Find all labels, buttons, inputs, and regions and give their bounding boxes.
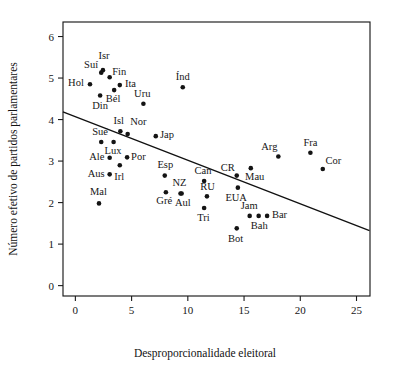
data-point-ita (117, 83, 122, 88)
data-point-sué (99, 140, 104, 145)
point-label-gré: Gré (156, 195, 172, 206)
y-tick-label: 0 (49, 280, 55, 292)
point-label-bar: Bar (272, 209, 288, 220)
point-label-sué: Sué (92, 126, 108, 137)
point-label-arg: Arg (261, 141, 278, 152)
y-axis-title: Número efetivo de partidos parlamentares (7, 62, 20, 256)
point-label-mau: Mau (245, 171, 265, 182)
y-tick-label: 2 (49, 197, 55, 209)
point-label-esp: Esp (157, 159, 173, 170)
point-label-lux: Lux (105, 145, 123, 156)
regression-line (64, 112, 369, 230)
point-label-jam: Jam (241, 200, 258, 211)
point-label-jap: Jap (160, 129, 174, 140)
point-label-tri: Tri (197, 212, 210, 223)
point-label-mal: Mal (90, 186, 107, 197)
data-point-mal (97, 201, 102, 206)
point-label-bot: Bot (228, 233, 243, 244)
point-label-isl: Isl (113, 115, 124, 126)
data-point-din (98, 93, 103, 98)
point-label-índ: Índ (176, 71, 191, 82)
data-points (88, 68, 325, 231)
point-label-nor: Nor (130, 116, 147, 127)
point-label-cor: Cor (326, 155, 342, 166)
data-point-tri (202, 206, 207, 211)
data-point-nor (125, 132, 130, 137)
point-label-ale: Ale (89, 151, 105, 162)
x-tick-label: 5 (129, 304, 135, 316)
data-point-ale (107, 155, 112, 160)
data-point-irl (117, 163, 122, 168)
point-label-cr: CR (221, 162, 235, 173)
point-label-fin: Fin (112, 66, 127, 77)
y-tick-label: 3 (49, 155, 55, 167)
data-point-jap (153, 134, 158, 139)
chart-canvas: 05101520250123456 IsrSuíFinHolItaBélDinU… (0, 0, 393, 371)
data-point-cor (320, 167, 325, 172)
data-point-hol (88, 82, 93, 87)
point-label-irl: Irl (114, 171, 124, 182)
point-label-fra: Fra (303, 137, 317, 148)
trend-line (64, 112, 369, 230)
point-label-suí: Suí (84, 59, 98, 70)
point-label-ru: RU (200, 181, 215, 192)
data-point-jam (247, 214, 252, 219)
y-tick-label: 6 (49, 31, 55, 43)
data-point-suí (99, 70, 104, 75)
point-label-din: Din (92, 100, 109, 111)
data-point-esp (162, 173, 167, 178)
data-point-eua (236, 185, 241, 190)
data-point-uru (141, 101, 146, 106)
point-label-nz: NZ (172, 177, 186, 188)
x-axis-title: Desproporcionalidade eleitoral (134, 347, 276, 360)
data-point-fra (308, 150, 313, 155)
x-tick-label: 15 (239, 304, 251, 316)
data-point-bél (112, 88, 117, 93)
x-tick-label: 20 (295, 304, 307, 316)
data-point-ru (205, 194, 210, 199)
data-point-cr (234, 173, 239, 178)
data-point-aus (107, 172, 112, 177)
point-label-aul: Aul (175, 197, 191, 208)
data-point-bot (234, 226, 239, 231)
data-point-aul (179, 191, 184, 196)
point-label-bah: Bah (251, 220, 269, 231)
point-label-por: Por (131, 151, 146, 162)
data-point-por (125, 155, 130, 160)
data-point-bah (256, 214, 261, 219)
data-point-bar (265, 214, 270, 219)
data-point-gré (164, 190, 169, 195)
y-tick-label: 5 (49, 72, 55, 84)
x-tick-label: 10 (182, 304, 194, 316)
point-label-aus: Aus (88, 168, 105, 179)
data-point-mau (248, 166, 253, 171)
y-tick-label: 1 (49, 238, 55, 250)
y-tick-label: 4 (49, 114, 55, 126)
point-label-uru: Uru (134, 88, 151, 99)
x-tick-label: 0 (73, 304, 79, 316)
point-label-can: Can (195, 165, 213, 176)
point-label-isr: Isr (98, 50, 110, 61)
data-point-lux (111, 140, 116, 145)
point-label-hol: Hol (68, 77, 84, 88)
data-point-índ (180, 85, 185, 90)
data-point-isl (118, 129, 123, 134)
data-point-arg (276, 154, 281, 159)
scatter-plot-figure: 05101520250123456 IsrSuíFinHolItaBélDinU… (0, 0, 393, 371)
x-tick-label: 25 (351, 304, 363, 316)
